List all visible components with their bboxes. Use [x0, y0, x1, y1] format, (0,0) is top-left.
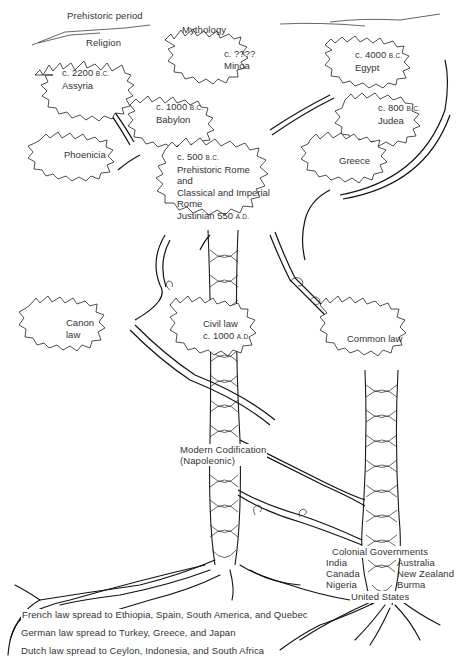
node-name: Babylon	[156, 114, 190, 125]
node-phoenicia: Phoenicia	[64, 149, 106, 161]
label-mythology: Mythology	[182, 24, 226, 36]
node-line: Canon	[66, 317, 94, 328]
rome-line: Prehistoric Rome	[177, 164, 250, 175]
codification-line: Modern Codification	[180, 444, 266, 455]
colony-name: Nigeria	[326, 579, 357, 590]
node-civil-law: Civil law c. 1000 A.D.	[203, 318, 251, 342]
note-dutch-law: Dutch law spread to Ceylon, Indonesia, a…	[21, 645, 264, 657]
colony-name: New Zealand	[397, 568, 454, 579]
codification-line: (Napoleonic)	[180, 455, 235, 466]
node-date: c. 4000	[355, 49, 386, 60]
node-egypt: c. 4000 B.C. Egypt	[355, 49, 403, 73]
rome-era: B.C.	[206, 154, 220, 161]
colonial-right-list: Australia New Zealand Burma	[397, 557, 454, 590]
roots	[8, 560, 440, 655]
node-canon-law: Canon law	[66, 317, 94, 340]
node-common-law: Common law	[347, 333, 402, 345]
node-era: B.C.	[190, 104, 204, 111]
node-greece: Greece	[339, 155, 370, 167]
node-era: A.D.	[237, 333, 251, 340]
label-colonial-governments: Colonial Governments	[331, 546, 429, 558]
node-line: law	[66, 329, 80, 340]
rome-line: Justinian 550	[177, 210, 233, 221]
cloud-common	[320, 296, 406, 356]
rome-era: A.D.	[236, 213, 250, 220]
node-era: B.C.	[96, 70, 110, 77]
common-law-trunk	[362, 370, 401, 605]
node-name: Judea	[378, 115, 404, 126]
node-assyria: c. 2200 B.C. Assyria	[62, 67, 110, 91]
note-german-law: German law spread to Turkey, Greece, and…	[21, 627, 236, 639]
node-name: Egypt	[355, 62, 379, 73]
node-line: c. 1000	[203, 330, 234, 341]
rome-date: c. 500	[177, 151, 203, 162]
civil-law-trunk	[208, 230, 240, 565]
node-judea: c. 800 B.C. Judea	[378, 102, 420, 126]
node-era: B.C.	[389, 52, 403, 59]
rome-line: and	[177, 175, 193, 186]
node-minoa: c. ???? Minoa	[224, 48, 255, 71]
label-modern-codification: Modern Codification (Napoleonic)	[179, 444, 267, 466]
node-line: Civil law	[203, 318, 238, 329]
colony-name: India	[326, 557, 347, 568]
colony-name: Australia	[397, 557, 435, 568]
label-prehistoric-period: Prehistoric period	[67, 10, 143, 22]
node-babylon: c. 1000 B.C. Babylon	[156, 101, 204, 125]
node-date: c. 800	[378, 102, 404, 113]
note-french-law: French law spread to Ethiopia, Spain, So…	[21, 609, 309, 621]
node-name: Assyria	[62, 80, 93, 91]
label-religion: Religion	[86, 37, 121, 49]
rome-line: Classical and Imperial	[177, 187, 270, 198]
colonial-left-list: India Canada Nigeria	[326, 557, 360, 590]
node-name: Minoa	[224, 60, 250, 71]
node-date: c. ????	[224, 48, 255, 59]
rome-line: Rome	[177, 198, 202, 209]
colony-name: Canada	[326, 568, 360, 579]
node-date: c. 2200	[62, 67, 93, 78]
colony-name: Burma	[397, 579, 425, 590]
node-date: c. 1000	[156, 101, 187, 112]
node-era: B.C.	[407, 105, 421, 112]
node-rome: c. 500 B.C. Prehistoric Rome and Classic…	[177, 151, 270, 222]
colony-united-states: United States	[350, 591, 410, 603]
